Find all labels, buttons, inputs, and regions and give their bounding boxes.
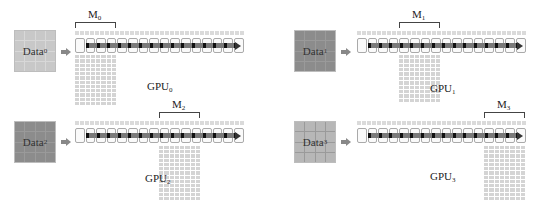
- strip-cell: [125, 121, 129, 125]
- grid-cell: [495, 159, 499, 162]
- grid-cell: [516, 184, 520, 187]
- strip-cell: [235, 31, 239, 35]
- grid-cell: [510, 184, 514, 187]
- grid-cell: [170, 154, 174, 157]
- segment-brace: [484, 112, 525, 118]
- strip-cell: [235, 121, 239, 125]
- grid-cell: [521, 163, 525, 166]
- grid-cell: [101, 76, 105, 79]
- pipeline-dot: [128, 43, 131, 48]
- strip-cell: [507, 121, 511, 125]
- grid-cell: [500, 171, 504, 174]
- grid-cell: [404, 55, 408, 58]
- pipeline-dot: [379, 43, 382, 48]
- grid-cell: [420, 59, 424, 62]
- grid-cell: [86, 93, 90, 96]
- grid-cell: [495, 150, 499, 153]
- pipeline-dot: [107, 43, 110, 48]
- grid-cell: [180, 163, 184, 166]
- data-label-subscript: 2: [44, 138, 48, 146]
- strip-cell: [397, 31, 401, 35]
- segment-label-text: M: [412, 8, 422, 20]
- pipeline-dot: [389, 43, 392, 48]
- grid-cell: [431, 64, 435, 67]
- pipeline-dot: [118, 43, 121, 48]
- strip-cell: [100, 31, 104, 35]
- strip-cell: [145, 31, 149, 35]
- grid-cell: [431, 68, 435, 71]
- grid-cell: [510, 154, 514, 157]
- grid-cell: [196, 197, 200, 200]
- data-label-subscript: 3: [324, 138, 328, 146]
- grid-cell: [191, 188, 195, 191]
- grid-cell: [420, 81, 424, 84]
- pipeline-dot: [139, 133, 142, 138]
- gpu-label: GPU2: [145, 172, 171, 186]
- grid-cell: [505, 184, 509, 187]
- grid-cell: [159, 154, 163, 157]
- grid-cell: [112, 64, 116, 67]
- gpu-label: GPU1: [430, 82, 456, 96]
- grid-cell: [159, 159, 163, 162]
- grid-cell: [425, 99, 429, 102]
- grid-cell: [175, 150, 179, 153]
- grid-cell: [521, 193, 525, 196]
- strip-cell: [467, 121, 471, 125]
- pipeline-dot: [453, 133, 456, 138]
- grid-cell: [185, 180, 189, 183]
- grid-cell: [505, 167, 509, 170]
- strip-cell: [160, 31, 164, 35]
- pipeline-dot: [150, 133, 153, 138]
- grid-cell: [500, 150, 504, 153]
- grid-cell: [80, 59, 84, 62]
- grid-cell: [80, 68, 84, 71]
- grid-cell: [196, 188, 200, 191]
- grid-cell: [420, 90, 424, 93]
- pipeline-dot: [128, 133, 131, 138]
- grid-cell: [404, 77, 408, 80]
- grid-cell: [484, 146, 488, 149]
- grid-cell: [107, 64, 111, 67]
- strip-cell: [452, 121, 456, 125]
- strip-cell: [512, 31, 516, 35]
- grid-cell: [425, 86, 429, 89]
- grid-cell: [415, 90, 419, 93]
- grid-cell: [75, 72, 79, 75]
- strip-cell: [377, 31, 381, 35]
- strip-cell: [437, 31, 441, 35]
- grid-cell: [404, 94, 408, 97]
- strip-cell: [442, 121, 446, 125]
- grid-cell: [510, 188, 514, 191]
- grid-cell: [101, 93, 105, 96]
- strip-cell: [205, 31, 209, 35]
- grid-cell: [180, 167, 184, 170]
- grid-cell: [80, 55, 84, 58]
- grid-cell: [96, 64, 100, 67]
- data-label-subscript: 1: [324, 47, 328, 55]
- grid-cell: [91, 102, 95, 105]
- grid-cell: [516, 154, 520, 157]
- grid-cell: [170, 163, 174, 166]
- grid-cell: [175, 163, 179, 166]
- grid-cell: [191, 163, 195, 166]
- grid-cell: [175, 171, 179, 174]
- grid-cell: [420, 68, 424, 71]
- grid-cell: [107, 102, 111, 105]
- strip-cell: [80, 31, 84, 35]
- grid-cell: [191, 176, 195, 179]
- grid-cell: [404, 90, 408, 93]
- strip-cell: [90, 31, 94, 35]
- grid-cell: [404, 86, 408, 89]
- grid-cell: [96, 81, 100, 84]
- data-block: Data1: [294, 30, 336, 72]
- grid-cell: [185, 146, 189, 149]
- strip-cell: [130, 121, 134, 125]
- pipeline-dot: [203, 133, 206, 138]
- strip-cell: [130, 31, 134, 35]
- grid-cell: [489, 146, 493, 149]
- grid-cell: [510, 150, 514, 153]
- grid-cell: [196, 193, 200, 196]
- pipeline-dot: [453, 43, 456, 48]
- strip-cell: [95, 31, 99, 35]
- data-block: Data3: [294, 121, 336, 163]
